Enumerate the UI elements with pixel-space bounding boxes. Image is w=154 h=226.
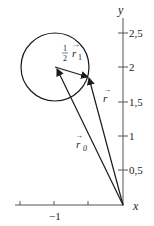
- vector-subscript: 0: [83, 144, 87, 153]
- y-tick-label: 1: [129, 130, 135, 142]
- vector-subscript: 1: [78, 53, 82, 62]
- arrow-accent-icon: →: [75, 131, 83, 140]
- vector-r0: [57, 69, 123, 205]
- arrow-accent-icon: →: [72, 40, 80, 49]
- y-axis-label: y: [117, 3, 124, 17]
- y-tick-label: 2: [129, 61, 135, 73]
- label-r0: r → 0: [75, 131, 87, 153]
- vector-diagram: y x 2,5 2 1,5 1 0,5 −1 1 2 r → 1 r → r →…: [0, 0, 154, 226]
- fraction-numerator: 1: [63, 44, 67, 53]
- arrow-accent-icon: →: [103, 85, 111, 94]
- fraction-denominator: 2: [63, 54, 67, 63]
- label-half-r1: 1 2 r → 1: [62, 40, 82, 63]
- y-tick-label: 1,5: [129, 96, 143, 108]
- y-tick-label: 2,5: [129, 27, 143, 39]
- x-axis: [15, 201, 123, 205]
- x-axis-label: x: [132, 199, 139, 213]
- y-axis: [118, 18, 128, 206]
- y-tick-label: 0,5: [129, 164, 143, 176]
- x-tick-label: −1: [49, 210, 61, 222]
- label-r: r →: [103, 85, 111, 104]
